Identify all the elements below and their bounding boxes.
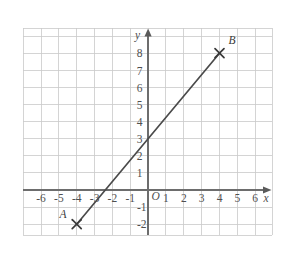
origin-label: O [152, 190, 161, 202]
x-tick-labels: -6 -5 -4 -3 -2 -1 1 2 3 4 5 6 [36, 192, 258, 204]
x-tick-label: -6 [36, 192, 46, 204]
point-label-a: A [58, 208, 67, 220]
x-axis-label: x [262, 192, 269, 204]
x-tick-label: 3 [199, 192, 205, 204]
y-tick-label: 4 [137, 116, 143, 128]
x-tick-label: -3 [90, 192, 100, 204]
y-tick-label: -1 [137, 201, 147, 213]
x-tick-label: -1 [126, 192, 136, 204]
x-tick-label: -2 [108, 192, 118, 204]
graph-canvas: y x O -6 -5 -4 -3 -2 -1 1 2 3 4 5 6 8 7 … [0, 0, 285, 256]
y-tick-label: 5 [137, 99, 143, 111]
x-tick-label: -5 [54, 192, 64, 204]
x-tick-label: -4 [72, 192, 82, 204]
x-tick-label: 2 [181, 192, 187, 204]
x-tick-label: 1 [163, 192, 169, 204]
y-tick-label: 1 [137, 167, 143, 179]
x-tick-label: 4 [217, 192, 223, 204]
x-tick-label: 5 [234, 192, 240, 204]
coordinate-plane-figure: y x O -6 -5 -4 -3 -2 -1 1 2 3 4 5 6 8 7 … [0, 0, 285, 256]
y-tick-label: 6 [137, 82, 143, 94]
y-tick-label: 7 [137, 65, 143, 77]
y-tick-label: 2 [137, 150, 143, 162]
y-tick-label: 3 [137, 133, 143, 145]
y-tick-label: -2 [137, 218, 147, 230]
x-tick-label: 6 [252, 192, 258, 204]
point-label-b: B [228, 34, 235, 46]
y-axis-label: y [134, 29, 141, 42]
y-tick-label: 8 [137, 47, 143, 59]
